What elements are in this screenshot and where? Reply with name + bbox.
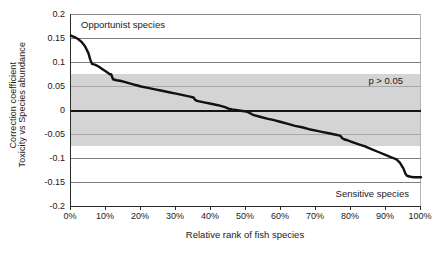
x-tick-label: 70% [306,212,324,221]
x-tick-label: 50% [236,212,254,221]
x-tick-mark [350,206,351,210]
y-tick-label: 0.05 [47,82,65,91]
y-tick-label: 0.1 [52,58,65,67]
y-axis-title: Correction coefficient Toxicity vs Speci… [0,0,36,210]
correlation-curve [71,14,421,206]
x-tick-mark [315,206,316,210]
y-tick-label: -0.05 [44,130,65,139]
x-tick-mark [105,206,106,210]
x-tick-label: 100% [408,212,431,221]
x-tick-mark [140,206,141,210]
x-tick-label: 30% [166,212,184,221]
y-tick-label: -0.1 [49,154,65,163]
annotation-p-value: p > 0.05 [368,76,403,86]
y-tick-label: -0.2 [49,202,65,211]
x-tick-mark [210,206,211,210]
plot-area: Opportunist species Sensitive species p … [70,14,421,207]
chart-figure: Correction coefficient Toxicity vs Speci… [0,0,444,262]
x-tick-label: 40% [201,212,219,221]
y-axis-title-line-2: Toxicity vs Species abundance [18,42,27,167]
x-tick-mark [70,206,71,210]
x-tick-mark [385,206,386,210]
y-axis-tick-labels: 0.20.150.10.050-0.05-0.1-0.15-0.2 [36,0,68,210]
x-tick-mark [175,206,176,210]
x-tick-label: 80% [341,212,359,221]
y-tick-label: -0.15 [44,178,65,187]
x-tick-mark [245,206,246,210]
x-tick-mark [420,206,421,210]
x-tick-label: 0% [63,212,76,221]
x-axis-tick-labels: 0%10%20%30%40%50%60%70%80%90%100% [70,212,420,226]
y-tick-label: 0 [60,106,65,115]
correlation-curve-path [71,36,421,178]
x-tick-label: 10% [96,212,114,221]
annotation-sensitive-species: Sensitive species [336,189,409,199]
x-tick-label: 20% [131,212,149,221]
x-tick-label: 60% [271,212,289,221]
x-axis-title: Relative rank of fish species [70,230,420,240]
x-tick-label: 90% [376,212,394,221]
y-tick-label: 0.15 [47,34,65,43]
annotation-opportunist-species: Opportunist species [81,20,165,30]
x-tick-mark [280,206,281,210]
y-tick-label: 0.2 [52,10,65,19]
